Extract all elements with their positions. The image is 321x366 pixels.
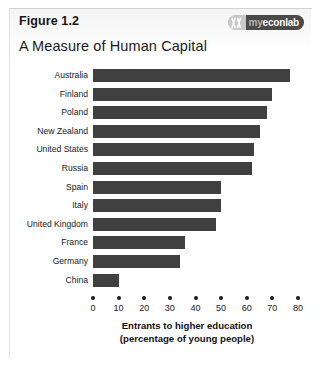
bar bbox=[93, 125, 260, 138]
logo-text-suffix: lab bbox=[285, 17, 299, 28]
bar bbox=[93, 274, 119, 287]
bar-row bbox=[93, 125, 260, 138]
x-axis-tick-dot bbox=[270, 296, 274, 300]
x-axis-tick-label: 20 bbox=[139, 303, 149, 314]
bar-row bbox=[93, 199, 221, 212]
bar-row bbox=[93, 255, 180, 268]
logo-text-prefix: my bbox=[249, 17, 263, 28]
bar bbox=[93, 255, 180, 268]
x-axis-tick-label: 80 bbox=[293, 303, 303, 314]
category-label: New Zealand bbox=[6, 126, 88, 136]
bar bbox=[93, 236, 185, 249]
x-axis-tick-label: 0 bbox=[90, 303, 95, 314]
category-label: Russia bbox=[6, 163, 88, 173]
category-label: Australia bbox=[6, 70, 88, 80]
category-label: France bbox=[6, 237, 88, 247]
bar bbox=[93, 69, 290, 82]
x-axis-tick-label: 10 bbox=[114, 303, 124, 314]
x-axis-tick-dot bbox=[117, 296, 121, 300]
x-axis-title-line1: Entrants to higher education bbox=[81, 320, 293, 333]
myeconlab-logo: myeconlab bbox=[228, 15, 304, 30]
bar-row bbox=[93, 274, 119, 287]
bar bbox=[93, 106, 267, 119]
bar bbox=[93, 162, 252, 175]
bar bbox=[93, 181, 221, 194]
bar-row bbox=[93, 88, 272, 101]
bar bbox=[93, 218, 216, 231]
category-label: Italy bbox=[6, 200, 88, 210]
x-axis-tick-dot bbox=[245, 296, 249, 300]
category-label: Finland bbox=[6, 89, 88, 99]
category-axis-labels: AustraliaFinlandPolandNew ZealandUnited … bbox=[6, 66, 88, 292]
bar bbox=[93, 199, 221, 212]
x-axis-tick-dot bbox=[296, 296, 300, 300]
x-axis: 01020304050607080 bbox=[93, 293, 298, 315]
x-axis-tick-label: 70 bbox=[267, 303, 277, 314]
x-axis-tick-dot bbox=[91, 296, 95, 300]
category-label: Poland bbox=[6, 107, 88, 117]
figure-container: Figure 1.2 myeconlab A Measure of Human … bbox=[0, 0, 321, 366]
x-axis-tick-label: 30 bbox=[165, 303, 175, 314]
myeconlab-mark-icon bbox=[228, 15, 246, 30]
figure-label: Figure 1.2 bbox=[19, 14, 79, 28]
x-axis-tick-label: 50 bbox=[216, 303, 226, 314]
bar-row bbox=[93, 69, 290, 82]
x-axis-tick-dot bbox=[194, 296, 198, 300]
logo-text-main: econ bbox=[263, 17, 286, 28]
bar-row bbox=[93, 181, 221, 194]
category-label: Germany bbox=[6, 256, 88, 266]
bar-row bbox=[93, 218, 216, 231]
x-axis-tick-dot bbox=[168, 296, 172, 300]
figure-header: Figure 1.2 myeconlab bbox=[19, 14, 304, 36]
bar-row bbox=[93, 106, 267, 119]
bar-row bbox=[93, 143, 254, 156]
bar-chart-plot-area bbox=[93, 66, 298, 292]
x-axis-title-line2: (percentage of young people) bbox=[81, 333, 293, 346]
page-edge-top bbox=[10, 8, 312, 9]
bar-row bbox=[93, 236, 185, 249]
bar-row bbox=[93, 162, 252, 175]
chart-title: A Measure of Human Capital bbox=[19, 38, 207, 54]
x-axis-tick-label: 40 bbox=[190, 303, 200, 314]
x-axis-title: Entrants to higher education (percentage… bbox=[81, 320, 293, 345]
myeconlab-wordmark: myeconlab bbox=[246, 15, 304, 30]
bar bbox=[93, 143, 254, 156]
category-label: China bbox=[6, 275, 88, 285]
bar bbox=[93, 88, 272, 101]
x-axis-tick-label: 60 bbox=[242, 303, 252, 314]
category-label: Spain bbox=[6, 182, 88, 192]
category-label: United States bbox=[6, 144, 88, 154]
x-axis-tick-dot bbox=[142, 296, 146, 300]
x-axis-tick-dot bbox=[219, 296, 223, 300]
category-label: United Kingdom bbox=[6, 219, 88, 229]
